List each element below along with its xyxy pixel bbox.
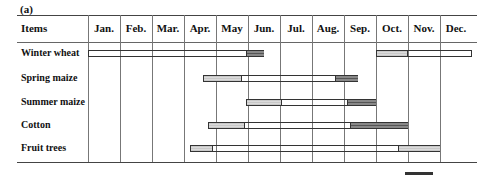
month-header: Jun. <box>248 15 280 42</box>
stage-segment-dark <box>335 76 358 81</box>
gantt-bar <box>190 145 440 152</box>
stage-segment-light <box>377 51 407 56</box>
legend-swatch <box>405 172 433 175</box>
month-header: Nov. <box>408 15 440 42</box>
month-header: May <box>216 15 248 42</box>
month-header: Jul. <box>280 15 312 42</box>
items-header: Items <box>17 15 92 42</box>
month-header: Jan. <box>88 15 120 42</box>
stage-segment-hatched <box>244 123 351 128</box>
stage-segment-light <box>209 123 244 128</box>
row-label: Winter wheat <box>21 47 79 58</box>
month-header: Sep. <box>344 15 376 42</box>
bottom-rule <box>17 162 477 163</box>
stage-segment-hatched <box>241 76 336 81</box>
row-label: Spring maize <box>21 72 77 83</box>
stage-segment-hatched <box>89 51 246 56</box>
stage-segment-light <box>204 76 241 81</box>
stage-segment-dark <box>246 51 264 56</box>
row-label: Cotton <box>21 119 50 130</box>
month-header: Dec. <box>440 15 472 42</box>
gantt-bar <box>203 75 358 82</box>
gantt-bar <box>208 122 408 129</box>
stage-segment-dark <box>350 123 408 128</box>
row-label: Fruit trees <box>21 142 66 153</box>
stage-segment-light <box>191 146 212 151</box>
panel-label: (a) <box>20 3 33 15</box>
stage-segment-hatched <box>212 146 399 151</box>
month-header: Oct. <box>376 15 408 42</box>
stage-segment-dark <box>347 100 376 105</box>
stage-segment-hatched <box>281 100 348 105</box>
month-header: Apr. <box>184 15 216 42</box>
month-header: Aug. <box>312 15 344 42</box>
month-header: Feb. <box>120 15 152 42</box>
stage-segment-light <box>398 146 440 151</box>
row-label: Summer maize <box>21 96 85 107</box>
gantt-chart: Items Jan.Feb.Mar.Apr.MayJun.Jul.Aug.Sep… <box>17 15 477 163</box>
gantt-bar <box>376 50 472 57</box>
month-header: Mar. <box>152 15 184 42</box>
stage-segment-hatched <box>407 51 472 56</box>
stage-segment-light <box>247 100 281 105</box>
gantt-bar <box>88 50 264 57</box>
gantt-bar <box>246 99 376 106</box>
